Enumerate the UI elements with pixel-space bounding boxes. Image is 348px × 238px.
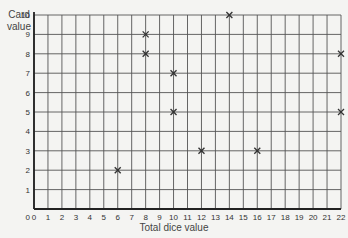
x-tick-label: 11	[183, 213, 192, 222]
x-tick-label: 4	[88, 213, 93, 222]
x-tick-label: 19	[295, 213, 304, 222]
x-tick-label: 8	[143, 213, 148, 222]
y-tick-label: 5	[26, 108, 31, 117]
y-tick-label: 9	[26, 30, 31, 39]
y-tick-label: 6	[26, 89, 31, 98]
x-tick-label: 2	[60, 213, 65, 222]
y-tick-label: 10	[21, 11, 30, 20]
x-tick-label: 15	[239, 213, 248, 222]
x-tick-label: 3	[74, 213, 79, 222]
x-tick-label: 10	[169, 213, 178, 222]
x-tick-label: 6	[116, 213, 121, 222]
x-tick-label: 16	[253, 213, 262, 222]
x-tick-label: 22	[337, 213, 346, 222]
y-tick-label: 2	[26, 166, 31, 175]
y-tick-label: 4	[26, 127, 31, 136]
x-tick-label: 0	[32, 213, 37, 222]
x-tick-label: 20	[309, 213, 318, 222]
x-tick-label: 9	[157, 213, 162, 222]
x-tick-label: 13	[211, 213, 220, 222]
x-tick-label: 18	[281, 213, 290, 222]
y-tick-label: 1	[26, 186, 31, 195]
x-tick-label: 21	[323, 213, 332, 222]
x-tick-label: 7	[129, 213, 134, 222]
x-tick-label: 14	[225, 213, 234, 222]
y-tick-label: 8	[26, 50, 31, 59]
x-tick-label: 12	[197, 213, 206, 222]
y-tick-label: 3	[26, 147, 31, 156]
y-tick-label: 7	[26, 69, 31, 78]
x-tick-label: 5	[102, 213, 107, 222]
origin-label: 0	[26, 213, 31, 222]
scatter-chart: 0123456789101112131415161718192021221234…	[0, 0, 348, 238]
x-axis-label: Total dice value	[0, 222, 348, 233]
x-tick-label: 1	[46, 213, 51, 222]
x-tick-label: 17	[267, 213, 276, 222]
